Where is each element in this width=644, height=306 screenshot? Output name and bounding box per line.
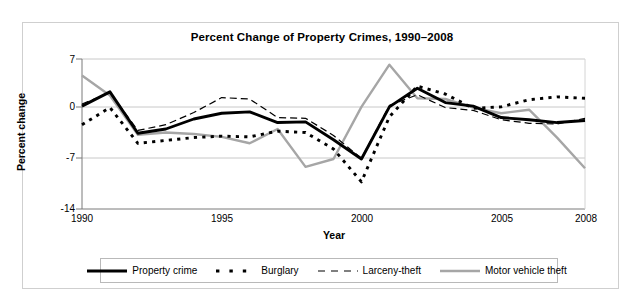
legend-label-larceny-theft: Larceny-theft [363,265,421,276]
dashed-thin-black-swatch [317,265,359,277]
series-motor-vehicle-theft [82,65,585,169]
chart-legend: Property crime Burglary Larceny-theft Mo… [100,258,558,283]
legend-entry-burglary: Burglary [215,265,298,277]
chart-figure: Percent Change of Property Crimes, 1990–… [0,0,644,306]
legend-label-motor-vehicle-theft: Motor vehicle theft [485,265,567,276]
gridlines [82,59,585,158]
solid-thick-black-swatch [86,265,128,277]
legend-label-property-crime: Property crime [132,265,197,276]
legend-entry-larceny-theft: Larceny-theft [317,265,421,277]
solid-gray-swatch [439,265,481,277]
dotted-thick-black-swatch [215,265,257,277]
legend-entry-motor-vehicle-theft: Motor vehicle theft [439,265,567,277]
legend-entry-property-crime: Property crime [86,265,197,277]
legend-label-burglary: Burglary [261,265,298,276]
